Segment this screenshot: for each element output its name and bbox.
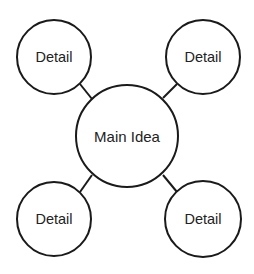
main-idea-label: Main Idea xyxy=(94,128,161,145)
connector-bottom-left xyxy=(80,175,92,192)
detail-node-top-right: Detail xyxy=(166,20,240,94)
detail-node-top-left: Detail xyxy=(17,20,91,94)
main-idea-node: Main Idea xyxy=(76,85,178,187)
detail-label: Detail xyxy=(35,211,72,227)
connector-top-left xyxy=(80,84,92,99)
connector-top-right xyxy=(163,84,177,98)
mind-map-diagram: Main Idea Detail Detail Detail Detail xyxy=(0,0,254,274)
detail-node-bottom-right: Detail xyxy=(165,181,241,257)
detail-label: Detail xyxy=(184,49,221,65)
detail-node-bottom-left: Detail xyxy=(17,182,91,256)
detail-label: Detail xyxy=(35,49,72,65)
connector-bottom-right xyxy=(163,175,177,192)
detail-label: Detail xyxy=(184,211,221,227)
